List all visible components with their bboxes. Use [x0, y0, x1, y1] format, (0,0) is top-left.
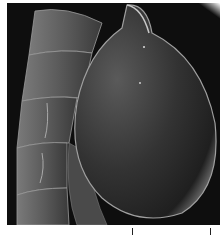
scale-bar-tick-right — [210, 228, 211, 235]
scale-bar-tick-left — [132, 228, 133, 235]
sem-micrograph — [7, 3, 220, 225]
